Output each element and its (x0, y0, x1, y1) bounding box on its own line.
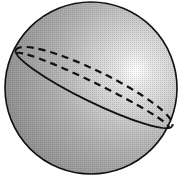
sphere-diagram: Sphere with great circle (0, 0, 182, 175)
sphere (5, 2, 177, 174)
